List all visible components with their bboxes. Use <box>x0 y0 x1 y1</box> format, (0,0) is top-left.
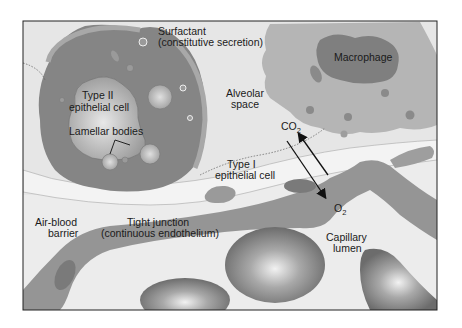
macrophage-vesicle <box>341 131 348 138</box>
red-blood-cell <box>225 227 325 303</box>
capillary-lumen-label: lumen <box>333 242 362 254</box>
alveolar-barrier-diagram: Surfactant (constitutive secretion) Macr… <box>0 0 462 328</box>
macrophage-vesicle <box>344 113 352 121</box>
macrophage-vesicle <box>306 106 314 114</box>
lamellar-body <box>148 85 172 109</box>
secretion-vesicle <box>188 116 193 121</box>
vesicle <box>122 157 128 163</box>
tight-junction-label: (continuous endothelium) <box>101 227 219 239</box>
secretion-vesicle <box>139 38 147 46</box>
macrophage-vesicle <box>381 89 389 97</box>
macrophage-vesicle <box>406 111 415 120</box>
air-blood-barrier-label: barrier <box>48 227 79 239</box>
lamellar-body <box>140 144 160 164</box>
alveolar-space-label: space <box>231 98 259 110</box>
surfactant-label: (constitutive secretion) <box>158 36 263 48</box>
lamellar-body <box>102 154 118 170</box>
vesicle <box>127 65 134 72</box>
type2-cell-label: epithelial cell <box>69 101 129 113</box>
macrophage-label: Macrophage <box>334 51 393 63</box>
vesicle <box>60 98 65 103</box>
secretion-vesicle <box>180 85 186 91</box>
lamellar-bodies-label: Lamellar bodies <box>69 125 143 137</box>
red-blood-cell <box>140 278 230 322</box>
type2-cell-label: Type II <box>82 89 114 101</box>
type1-cell-label: epithelial cell <box>215 169 275 181</box>
endothelial-nucleus <box>284 179 316 193</box>
